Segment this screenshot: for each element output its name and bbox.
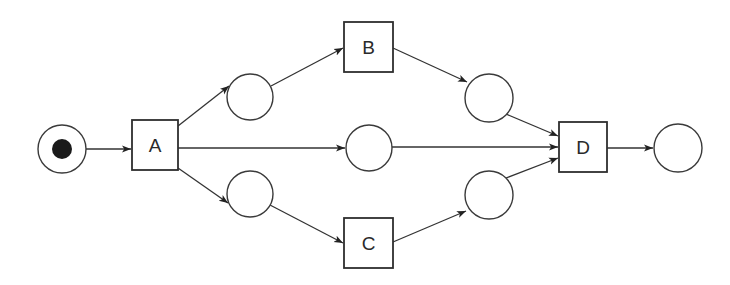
place-p4[interactable]: [465, 74, 513, 122]
transition-c-label: C: [362, 233, 376, 254]
transition-b[interactable]: B: [344, 22, 393, 72]
arc-p5-to-d: [506, 158, 558, 178]
place-end[interactable]: [654, 124, 702, 172]
transition-d-label: D: [576, 137, 590, 158]
place-p1[interactable]: [227, 74, 273, 120]
arc-c-to-p5: [393, 211, 466, 242]
transition-c[interactable]: C: [344, 218, 393, 268]
transition-b-label: B: [362, 37, 375, 58]
arc-p3-to-c: [270, 205, 343, 243]
petri-net-diagram: A B C D: [0, 0, 730, 285]
arc-a-to-p3: [178, 168, 228, 203]
arc-p4-to-d: [506, 114, 558, 136]
transition-d[interactable]: D: [559, 122, 607, 172]
arc-b-to-p4: [393, 48, 467, 82]
token-icon: [52, 139, 72, 159]
place-p2[interactable]: [346, 125, 392, 171]
place-p5[interactable]: [465, 171, 513, 219]
transition-a[interactable]: A: [132, 120, 178, 170]
arc-a-to-p1: [178, 86, 229, 126]
arc-p1-to-b: [271, 48, 343, 86]
place-p3[interactable]: [227, 171, 273, 217]
transition-a-label: A: [149, 135, 162, 156]
